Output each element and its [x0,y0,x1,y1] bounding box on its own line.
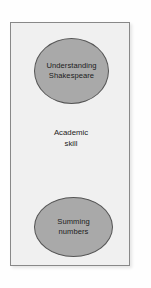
node-summing-numbers-line2: numbers [59,227,89,237]
node-summing-numbers-line1: Summing [57,217,89,227]
center-label-academic-skill: Academic skill [11,127,131,149]
diagram-canvas: Understanding Shakespeare Academic skill… [0,0,151,288]
academic-skill-container: Understanding Shakespeare Academic skill… [10,22,130,266]
center-label-line1: Academic [11,127,131,138]
node-understanding-shakespeare-line2: Shakespeare [49,71,94,81]
node-understanding-shakespeare-line1: Understanding [46,61,96,71]
node-summing-numbers: Summing numbers [34,197,113,257]
center-label-line2: skill [11,138,131,149]
node-understanding-shakespeare: Understanding Shakespeare [34,38,109,104]
